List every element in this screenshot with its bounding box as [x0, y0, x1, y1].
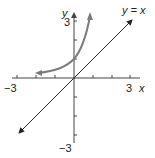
x-max-label: 3 — [126, 82, 132, 94]
identity-line-lower-end — [19, 78, 74, 133]
curve-arrow-up-icon — [87, 12, 93, 20]
x-axis-label: x — [138, 82, 145, 94]
y-axis-arrow-icon — [71, 12, 77, 18]
line-label: y = x — [121, 4, 146, 16]
y-max-label: 3 — [64, 16, 70, 28]
y-min-label: −3 — [59, 142, 72, 154]
graph: y 3 −3 −3 3 x y = x — [0, 0, 155, 158]
x-min-label: −3 — [4, 82, 17, 94]
